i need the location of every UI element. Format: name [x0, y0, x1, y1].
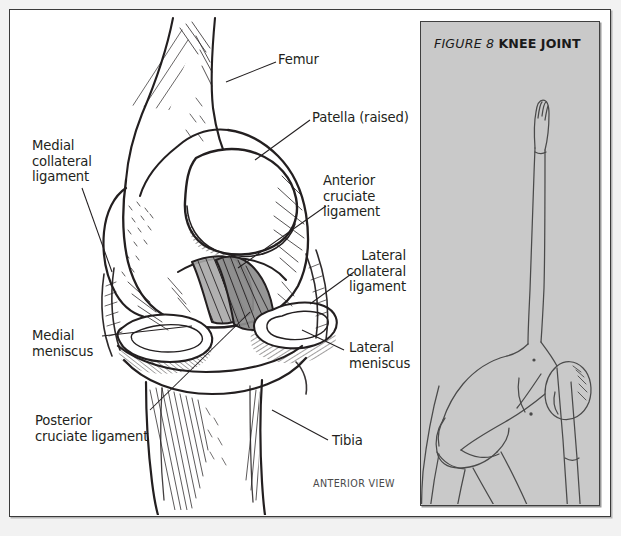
pose-panel: FIGURE 8 KNEE JOINT: [420, 21, 600, 506]
knee-joint-illustration: Femur Patella (raised) Medial collateral…: [10, 10, 418, 515]
label-femur: Femur: [278, 52, 319, 68]
label-lateral-collateral-ligament: Lateral collateral ligament: [296, 248, 406, 295]
triangle-pose-figure: [421, 22, 598, 504]
label-posterior-cruciate-ligament: Posterior cruciate ligament: [35, 413, 148, 444]
label-anterior-cruciate-ligament: Anterior cruciate ligament: [323, 173, 418, 220]
label-medial-collateral-ligament: Medial collateral ligament: [32, 138, 92, 185]
label-lateral-meniscus: Lateral meniscus: [349, 340, 410, 371]
label-tibia: Tibia: [332, 433, 363, 449]
label-patella: Patella (raised): [312, 110, 409, 126]
figure-page: Femur Patella (raised) Medial collateral…: [0, 0, 621, 536]
figure-frame: Femur Patella (raised) Medial collateral…: [9, 9, 611, 517]
anterior-view-caption: ANTERIOR VIEW: [313, 478, 395, 489]
label-medial-meniscus: Medial meniscus: [32, 328, 93, 359]
